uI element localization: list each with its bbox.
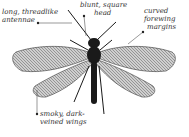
label-wings: smoky, dark- veined wings [40, 110, 87, 126]
thorax [87, 46, 101, 64]
abdomen [91, 62, 97, 104]
label-antennae: long, threadlike antennae [2, 8, 58, 24]
label-head: blunt, square head [80, 1, 127, 17]
insect-body [87, 38, 101, 104]
label-forewing: curved forewing margins [144, 7, 176, 31]
